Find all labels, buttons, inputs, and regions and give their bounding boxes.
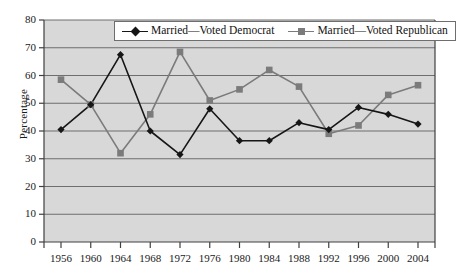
data-point-marker bbox=[58, 76, 65, 83]
data-point-marker bbox=[385, 92, 392, 99]
square-icon bbox=[288, 26, 314, 37]
legend-label-democrat: Married—Voted Democrat bbox=[151, 25, 274, 37]
data-point-marker bbox=[415, 82, 422, 89]
legend-entry-democrat: Married—Voted Democrat bbox=[122, 25, 274, 37]
legend-label-republican: Married—Voted Republican bbox=[317, 25, 447, 37]
data-point-marker bbox=[236, 86, 243, 93]
data-point-marker bbox=[206, 97, 213, 104]
y-tick-label: 80 bbox=[8, 14, 36, 25]
y-tick-label: 60 bbox=[8, 70, 36, 81]
data-point-marker bbox=[355, 122, 362, 129]
chart-legend: Married—Voted Democrat Married—Voted Rep… bbox=[114, 21, 456, 41]
data-point-marker bbox=[296, 83, 303, 90]
y-tick-label: 0 bbox=[8, 236, 36, 247]
x-tick-label: 2004 bbox=[398, 253, 438, 264]
data-point-marker bbox=[117, 150, 124, 157]
data-point-marker bbox=[147, 111, 154, 118]
data-point-marker bbox=[177, 49, 184, 56]
y-tick-label: 10 bbox=[8, 208, 36, 219]
y-tick-label: 40 bbox=[8, 125, 36, 136]
legend-entry-republican: Married—Voted Republican bbox=[288, 25, 447, 37]
y-tick-label: 20 bbox=[8, 181, 36, 192]
diamond-icon bbox=[122, 26, 148, 37]
y-tick-label: 30 bbox=[8, 153, 36, 164]
y-tick-label: 50 bbox=[8, 97, 36, 108]
y-tick-label: 70 bbox=[8, 42, 36, 53]
data-point-marker bbox=[266, 67, 273, 74]
